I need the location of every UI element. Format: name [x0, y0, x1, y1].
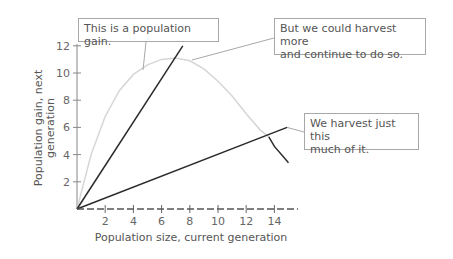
x-tick-label: 8 [186, 215, 193, 228]
x-tick-label: 2 [102, 215, 109, 228]
y-axis-title: Population gain, next generation [32, 69, 57, 186]
population-gain-curve-tail [269, 137, 289, 163]
shallow-harvest-line [77, 127, 287, 209]
callout-text-line1: But we could harvest more [280, 22, 420, 48]
x-axis-title: Population size, current generation [95, 231, 288, 244]
y-tick-labels: 2 4 6 8 10 12 [56, 40, 70, 189]
y-axis-title-line2: generation [44, 98, 57, 158]
x-tick-labels: 2 4 6 8 10 12 14 [102, 215, 282, 228]
callout-population-gain: This is a population gain. [78, 18, 219, 42]
x-tick-label: 10 [211, 215, 225, 228]
y-tick-label: 6 [63, 121, 70, 134]
y-tick-label: 8 [63, 94, 70, 107]
x-tick-label: 14 [267, 215, 281, 228]
callout-text-line1: We harvest just this [310, 117, 413, 143]
callout-leader-just [287, 127, 304, 132]
callout-harvest-more: But we could harvest more and continue t… [274, 18, 426, 55]
callout-text-line2: and continue to do so. [280, 48, 420, 61]
population-gain-curve [77, 58, 269, 209]
y-tick-label: 10 [56, 67, 70, 80]
x-tick-label: 4 [130, 215, 137, 228]
y-tick-label: 4 [63, 149, 70, 162]
y-tick-label: 12 [56, 40, 70, 53]
callout-text-line2: much of it. [310, 143, 413, 156]
x-tick-label: 6 [158, 215, 165, 228]
steep-harvest-line [77, 46, 183, 209]
x-tick-label: 12 [239, 215, 253, 228]
callout-harvest-just: We harvest just this much of it. [304, 113, 419, 150]
y-tick-label: 2 [63, 176, 70, 189]
